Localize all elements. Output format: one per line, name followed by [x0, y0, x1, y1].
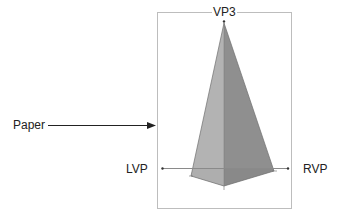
paper-label: Paper: [13, 119, 45, 131]
rvp-label: RVP: [303, 163, 327, 175]
perspective-diagram: [0, 0, 341, 216]
lvp-label: LVP: [126, 163, 148, 175]
vp3-point: [223, 20, 225, 22]
vp3-label: VP3: [212, 6, 237, 18]
rvp-point: [287, 167, 289, 169]
lvp-point: [161, 167, 163, 169]
arrow-head-icon: [147, 122, 156, 129]
